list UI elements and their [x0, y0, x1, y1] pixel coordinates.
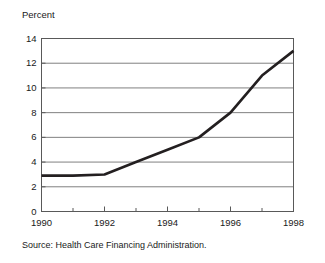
y-axis-label-4: 4 [11, 157, 37, 167]
y-axis-label-10: 10 [11, 83, 37, 93]
y-axis-label-6: 6 [11, 132, 37, 142]
x-axis-label-1996: 1996 [211, 218, 251, 228]
x-axis-label-1992: 1992 [85, 218, 125, 228]
source-note: Source: Health Care Financing Administra… [22, 240, 207, 251]
x-axis-label-1994: 1994 [148, 218, 188, 228]
y-axis-label-14: 14 [11, 34, 37, 44]
y-axis-label-8: 8 [11, 108, 37, 118]
line-chart-plot: 02468101214 19901992199419961998 [0, 0, 325, 230]
data-series-line [42, 51, 294, 176]
y-axis-label-0: 0 [11, 207, 37, 217]
x-axis-label-1998: 1998 [274, 218, 314, 228]
x-axis-label-1990: 1990 [22, 218, 62, 228]
y-axis-label-12: 12 [11, 58, 37, 68]
chart-figure: Percent 02468101214 19901992199419961998… [0, 0, 325, 263]
plot-frame [42, 39, 294, 212]
y-axis-label-2: 2 [11, 182, 37, 192]
chart-svg [0, 0, 325, 230]
